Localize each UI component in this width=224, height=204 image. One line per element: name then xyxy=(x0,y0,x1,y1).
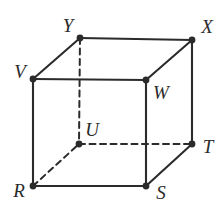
vertex-label-v: V xyxy=(14,62,26,81)
vertex-label-s: S xyxy=(156,183,166,202)
vertex-dot-y xyxy=(77,35,84,42)
edge-y-u xyxy=(79,38,80,144)
vertex-label-y: Y xyxy=(63,16,74,35)
vertex-dot-w xyxy=(143,77,150,84)
cube-figure: YXVWUTRS xyxy=(0,0,224,204)
vertex-label-u: U xyxy=(85,120,99,139)
cube-drawing xyxy=(0,0,224,204)
edge-v-y xyxy=(33,38,80,79)
vertex-dot-t xyxy=(189,141,196,148)
vertex-dot-u xyxy=(76,141,83,148)
edge-w-x xyxy=(146,40,192,80)
vertex-dot-x xyxy=(189,37,196,44)
edges-layer xyxy=(33,38,192,186)
vertex-dot-s xyxy=(143,183,150,190)
vertex-dot-v xyxy=(30,76,37,83)
edge-v-w xyxy=(33,79,146,80)
edge-y-x xyxy=(80,38,192,40)
vertex-label-x: X xyxy=(201,17,213,36)
vertex-dot-r xyxy=(30,183,37,190)
edge-s-t xyxy=(146,144,192,186)
edge-r-u xyxy=(33,144,79,186)
vertex-label-w: W xyxy=(153,83,169,102)
vertex-label-r: R xyxy=(13,181,25,200)
vertex-label-t: T xyxy=(203,137,214,156)
